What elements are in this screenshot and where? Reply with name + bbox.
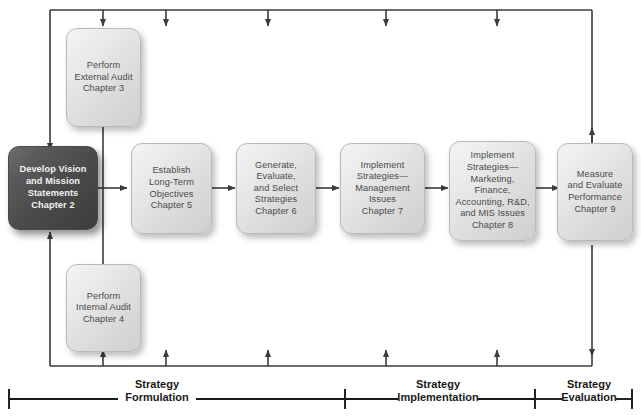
phase-label-strategy-evaluation: Strategy Evaluation bbox=[560, 378, 618, 404]
node-select-strategies[interactable]: Generate, Evaluate, and Select Strategie… bbox=[236, 143, 316, 234]
phase-label-strategy-implementation: Strategy Implementation bbox=[396, 378, 480, 404]
node-implement-management-label: Implement Strategies— Management Issues … bbox=[351, 160, 414, 218]
node-measure-evaluate-label: Measure and Evaluate Performance Chapter… bbox=[564, 169, 627, 215]
node-measure-evaluate[interactable]: Measure and Evaluate Performance Chapter… bbox=[557, 143, 633, 241]
node-implement-functional[interactable]: Implement Strategies— Marketing, Finance… bbox=[449, 141, 536, 241]
node-external-audit[interactable]: Perform External Audit Chapter 3 bbox=[66, 28, 141, 127]
node-vision-mission[interactable]: Develop Vision and Mission Statements Ch… bbox=[8, 146, 98, 230]
strategic-management-model-diagram: Develop Vision and Mission Statements Ch… bbox=[0, 0, 641, 418]
node-external-audit-label: Perform External Audit Chapter 3 bbox=[70, 60, 136, 95]
node-internal-audit-label: Perform Internal Audit Chapter 4 bbox=[72, 291, 135, 326]
node-implement-functional-label: Implement Strategies— Marketing, Finance… bbox=[451, 150, 533, 231]
node-long-term-objectives[interactable]: Establish Long-Term Objectives Chapter 5 bbox=[131, 143, 212, 234]
node-long-term-objectives-label: Establish Long-Term Objectives Chapter 5 bbox=[145, 165, 198, 211]
phase-label-strategy-formulation: Strategy Formulation bbox=[118, 378, 196, 404]
node-internal-audit[interactable]: Perform Internal Audit Chapter 4 bbox=[66, 264, 141, 352]
node-implement-management[interactable]: Implement Strategies— Management Issues … bbox=[340, 143, 425, 234]
node-vision-mission-label: Develop Vision and Mission Statements Ch… bbox=[15, 164, 90, 211]
node-select-strategies-label: Generate, Evaluate, and Select Strategie… bbox=[250, 160, 302, 218]
phase-legend-rule bbox=[0, 378, 641, 418]
phase-legend: Strategy Formulation Strategy Implementa… bbox=[0, 378, 641, 418]
